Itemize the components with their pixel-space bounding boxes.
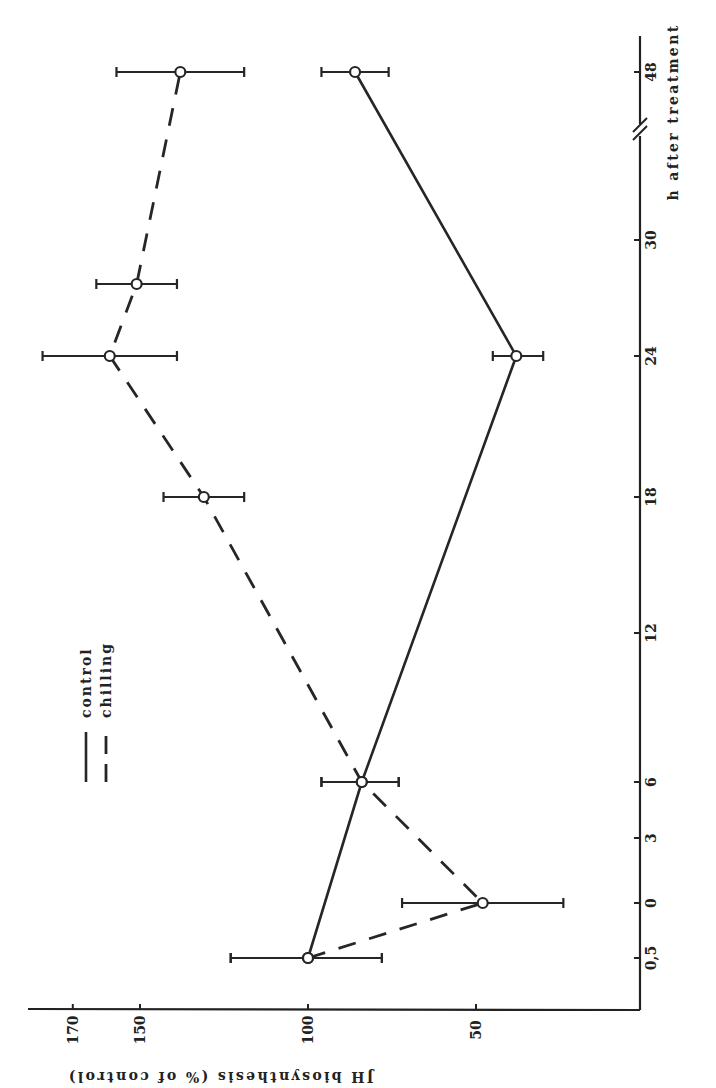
legend-label-control: control bbox=[78, 647, 94, 718]
time-axis-title: h after treatment bbox=[665, 23, 681, 200]
series-control bbox=[231, 67, 543, 963]
data-point-marker bbox=[478, 898, 488, 908]
data-point-marker bbox=[175, 67, 185, 77]
value-tick-label: 170 bbox=[65, 1015, 81, 1044]
series bbox=[43, 67, 564, 963]
time-tick-label: 30 bbox=[643, 230, 659, 250]
value-axis-title: JH biosynthesis (% of control) bbox=[66, 1069, 375, 1085]
data-point-marker bbox=[511, 351, 521, 361]
data-point-marker bbox=[303, 953, 313, 963]
data-point-marker bbox=[350, 67, 360, 77]
legend-label-chilling: chilling bbox=[98, 642, 114, 718]
data-point-marker bbox=[199, 492, 209, 502]
legend: controlchilling bbox=[78, 642, 114, 782]
data-point-marker bbox=[132, 279, 142, 289]
value-tick-label: 100 bbox=[300, 1015, 316, 1044]
series-chilling bbox=[43, 67, 564, 963]
data-point-marker bbox=[105, 351, 115, 361]
chart: controlchilling 0,5036121824304850100150… bbox=[0, 0, 716, 1088]
time-tick-label: 18 bbox=[643, 487, 659, 506]
value-tick-label: 50 bbox=[468, 1020, 484, 1040]
control-line bbox=[308, 72, 516, 958]
time-tick-label: 6 bbox=[643, 777, 659, 787]
time-tick-label: 24 bbox=[643, 346, 659, 366]
value-tick-label: 150 bbox=[132, 1015, 148, 1044]
time-tick-label: 0 bbox=[643, 898, 659, 908]
data-point-marker bbox=[357, 777, 367, 787]
time-tick-label: 0,5 bbox=[643, 946, 659, 970]
time-tick-label: 48 bbox=[643, 62, 659, 81]
value-axis bbox=[28, 1009, 640, 1010]
chilling-line bbox=[110, 72, 483, 958]
time-tick-label: 3 bbox=[643, 833, 659, 843]
time-tick-label: 12 bbox=[643, 623, 659, 642]
